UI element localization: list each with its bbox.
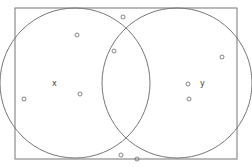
set-y-label: y xyxy=(200,79,205,88)
data-point-marker xyxy=(78,92,82,96)
set-x-circle xyxy=(0,8,150,158)
data-point-marker xyxy=(112,49,116,53)
set-y-circle xyxy=(102,8,252,158)
data-point-marker xyxy=(220,55,224,59)
data-point-marker xyxy=(187,97,191,101)
data-point-marker xyxy=(119,153,123,157)
venn-diagram: x y xyxy=(0,0,252,167)
data-point-marker xyxy=(22,97,26,101)
data-point-marker xyxy=(121,15,125,19)
points-group xyxy=(22,15,224,161)
set-x-label: x xyxy=(52,79,57,88)
data-point-marker xyxy=(75,33,79,37)
data-point-marker xyxy=(186,82,190,86)
